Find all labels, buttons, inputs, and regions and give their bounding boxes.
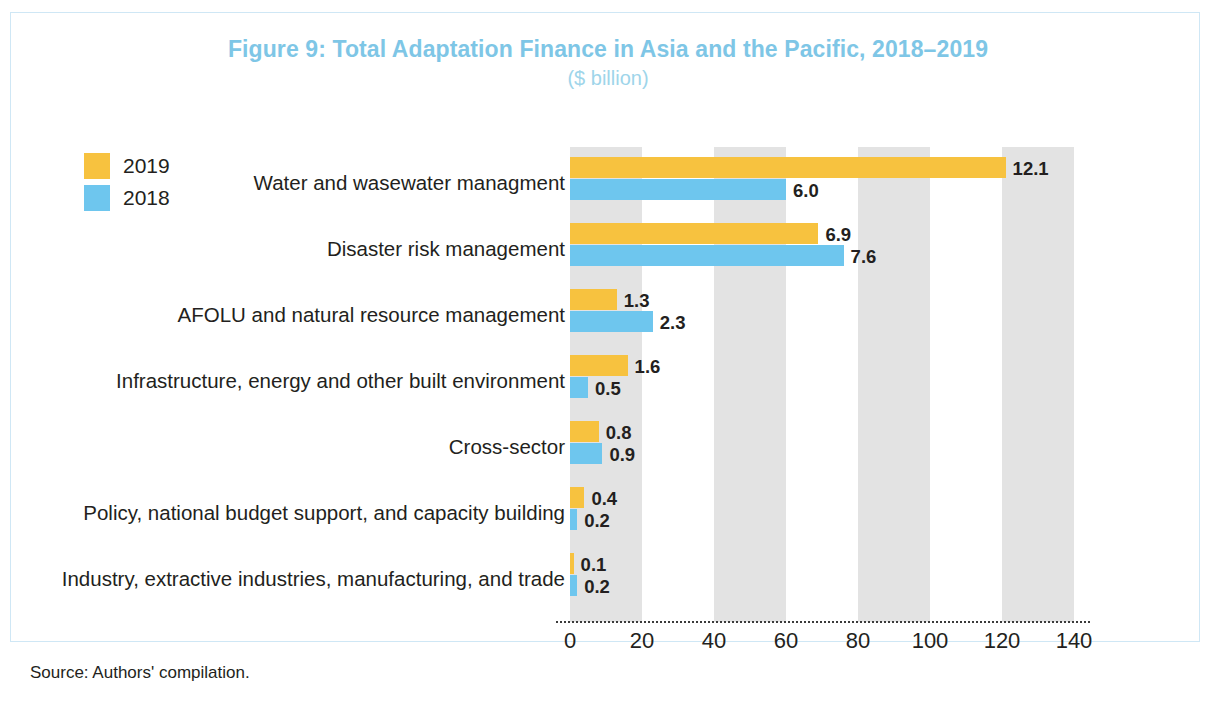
bar-value-label: 2.3 xyxy=(660,312,686,334)
x-tick-label: 20 xyxy=(630,628,654,654)
bar-2019 xyxy=(570,553,574,574)
bar-value-label: 0.8 xyxy=(606,422,632,444)
bar-value-label: 7.6 xyxy=(851,246,877,268)
x-tick-label: 100 xyxy=(912,628,949,654)
bar-value-label: 1.6 xyxy=(635,356,661,378)
bar-value-label: 12.1 xyxy=(1013,158,1049,180)
bar-series-container: 12.16.06.97.61.32.31.60.50.80.90.40.20.1… xyxy=(570,150,1216,612)
bar-group: 1.32.3 xyxy=(570,282,1216,348)
category-label: Disaster risk management xyxy=(20,216,565,282)
bar-2018 xyxy=(570,509,577,530)
category-label: Cross-sector xyxy=(20,414,565,480)
x-tick-label: 60 xyxy=(774,628,798,654)
bar-2018 xyxy=(570,377,588,398)
category-label: Water and wasewater managment xyxy=(20,150,565,216)
bar-group: 6.97.6 xyxy=(570,216,1216,282)
bar-value-label: 6.0 xyxy=(793,180,819,202)
bar-value-label: 0.2 xyxy=(584,510,610,532)
bar-2019 xyxy=(570,289,617,310)
x-axis-line xyxy=(556,621,1090,623)
bar-2019 xyxy=(570,157,1006,178)
bar-group: 0.10.2 xyxy=(570,546,1216,612)
bar-value-label: 0.1 xyxy=(581,554,607,576)
x-tick-label: 0 xyxy=(564,628,576,654)
bar-2019 xyxy=(570,223,818,244)
bar-group: 1.60.5 xyxy=(570,348,1216,414)
bar-value-label: 6.9 xyxy=(825,224,851,246)
category-label: Infrastructure, energy and other built e… xyxy=(20,348,565,414)
bar-value-label: 1.3 xyxy=(624,290,650,312)
category-label: Policy, national budget support, and cap… xyxy=(20,480,565,546)
bar-value-label: 0.4 xyxy=(591,488,617,510)
bar-value-label: 0.9 xyxy=(609,444,635,466)
category-label: Industry, extractive industries, manufac… xyxy=(20,546,565,612)
category-label: AFOLU and natural resource management xyxy=(20,282,565,348)
bar-2018 xyxy=(570,575,577,596)
bar-value-label: 0.2 xyxy=(584,576,610,598)
bar-group: 12.16.0 xyxy=(570,150,1216,216)
x-tick-label: 40 xyxy=(702,628,726,654)
bar-group: 0.40.2 xyxy=(570,480,1216,546)
bar-group: 0.80.9 xyxy=(570,414,1216,480)
bar-2018 xyxy=(570,311,653,332)
plot-area: Water and wasewater managmentDisaster ri… xyxy=(0,0,1216,718)
source-note: Source: Authors' compilation. xyxy=(30,663,250,683)
category-axis-labels: Water and wasewater managmentDisaster ri… xyxy=(20,150,565,612)
bar-value-label: 0.5 xyxy=(595,378,621,400)
bar-2018 xyxy=(570,443,602,464)
bar-2019 xyxy=(570,487,584,508)
bar-2019 xyxy=(570,355,628,376)
bar-2018 xyxy=(570,179,786,200)
x-axis-tick-labels: 020406080100120140 xyxy=(570,628,1074,662)
x-tick-label: 80 xyxy=(846,628,870,654)
bar-2018 xyxy=(570,245,844,266)
x-tick-label: 120 xyxy=(984,628,1021,654)
bar-2019 xyxy=(570,421,599,442)
x-tick-label: 140 xyxy=(1056,628,1093,654)
